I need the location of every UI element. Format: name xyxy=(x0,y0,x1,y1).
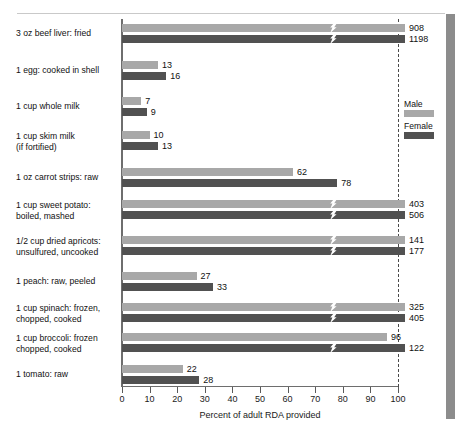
bar-value-female-10: 28 xyxy=(203,375,213,385)
row-label-line1: 1 cup skim milk xyxy=(16,131,120,142)
bar-female-7 xyxy=(122,283,213,291)
row-label-line1: 1 oz carrot strips: raw xyxy=(16,172,120,183)
row-label-0: 3 oz beef liver: fried xyxy=(16,28,120,39)
bar-female-5 xyxy=(122,211,405,219)
row-label-2: 1 cup whole milk xyxy=(16,101,120,112)
legend-label-female: Female xyxy=(404,121,448,131)
row-label-line2: chopped, cooked xyxy=(16,344,120,355)
row-label-line1: 1 tomato: raw xyxy=(16,369,120,380)
bar-male-8 xyxy=(122,303,405,311)
x-tick-30 xyxy=(205,387,206,393)
x-tick-0 xyxy=(122,387,123,393)
x-tick-label-50: 50 xyxy=(255,394,265,404)
bar-female-3 xyxy=(122,142,158,150)
bar-male-5 xyxy=(122,200,405,208)
row-label-line2: chopped, cooked xyxy=(16,314,120,325)
x-tick-label-100: 100 xyxy=(390,394,405,404)
row-label-line1: 3 oz beef liver: fried xyxy=(16,28,120,39)
chart-legend: Male Female xyxy=(404,99,448,143)
bar-value-male-10: 22 xyxy=(187,364,197,374)
bar-male-2 xyxy=(122,97,141,105)
axis-break-icon xyxy=(329,210,338,220)
bar-female-10 xyxy=(122,376,199,384)
bar-female-4 xyxy=(122,179,337,187)
bar-value-female-6: 177 xyxy=(409,246,424,256)
axis-break-icon xyxy=(329,246,338,256)
bar-male-10 xyxy=(122,365,183,373)
x-tick-80 xyxy=(343,387,344,393)
bar-male-0 xyxy=(122,24,405,32)
bar-male-3 xyxy=(122,131,150,139)
row-label-line2: unsulfured, uncooked xyxy=(16,247,120,258)
legend-swatch-male xyxy=(404,110,434,117)
bar-value-female-7: 33 xyxy=(217,282,227,292)
bar-value-male-4: 62 xyxy=(297,167,307,177)
legend-swatch-female xyxy=(404,132,434,139)
axis-break-icon xyxy=(329,34,338,44)
bar-value-male-2: 7 xyxy=(145,96,150,106)
bar-female-6 xyxy=(122,247,405,255)
bar-male-6 xyxy=(122,236,405,244)
row-label-line2: boiled, mashed xyxy=(16,211,120,222)
row-label-line1: 1 egg: cooked in shell xyxy=(16,65,120,76)
bar-male-9 xyxy=(122,333,387,341)
row-label-8: 1 cup spinach: frozen,chopped, cooked xyxy=(16,303,120,324)
x-tick-60 xyxy=(288,387,289,393)
bar-value-male-8: 325 xyxy=(409,302,424,312)
axis-break-icon xyxy=(329,199,338,209)
bar-value-female-3: 13 xyxy=(162,141,172,151)
axis-break-icon xyxy=(329,302,338,312)
row-label-4: 1 oz carrot strips: raw xyxy=(16,172,120,183)
x-tick-100 xyxy=(398,387,399,393)
x-tick-20 xyxy=(177,387,178,393)
x-axis-title: Percent of adult RDA provided xyxy=(121,410,399,420)
bar-female-0 xyxy=(122,35,405,43)
bar-value-male-0: 908 xyxy=(409,23,424,33)
row-label-7: 1 peach: raw, peeled xyxy=(16,276,120,287)
legend-label-male: Male xyxy=(404,99,448,109)
row-label-line1: 1 cup spinach: frozen, xyxy=(16,303,120,314)
bar-value-male-5: 403 xyxy=(409,199,424,209)
bar-value-male-9: 96 xyxy=(391,332,401,342)
x-tick-label-90: 90 xyxy=(365,394,375,404)
x-tick-label-0: 0 xyxy=(119,394,124,404)
axis-break-icon xyxy=(329,235,338,245)
row-label-9: 1 cup broccoli: frozenchopped, cooked xyxy=(16,333,120,354)
x-tick-90 xyxy=(370,387,371,393)
row-label-line1: 1 cup sweet potato: xyxy=(16,200,120,211)
x-tick-label-10: 10 xyxy=(145,394,155,404)
bar-male-4 xyxy=(122,168,293,176)
x-tick-70 xyxy=(315,387,316,393)
row-label-line1: 1 cup broccoli: frozen xyxy=(16,333,120,344)
bar-male-1 xyxy=(122,61,158,69)
x-tick-label-20: 20 xyxy=(172,394,182,404)
x-tick-50 xyxy=(260,387,261,393)
bar-value-female-4: 78 xyxy=(341,178,351,188)
x-tick-label-30: 30 xyxy=(200,394,210,404)
x-tick-label-70: 70 xyxy=(310,394,320,404)
bar-female-1 xyxy=(122,72,166,80)
bar-value-male-7: 27 xyxy=(201,271,211,281)
axis-break-icon xyxy=(329,23,338,33)
bar-value-female-8: 405 xyxy=(409,313,424,323)
row-label-1: 1 egg: cooked in shell xyxy=(16,65,120,76)
bar-female-2 xyxy=(122,108,147,116)
row-label-line1: 1/2 cup dried apricots: xyxy=(16,236,120,247)
bar-value-female-5: 506 xyxy=(409,210,424,220)
row-label-5: 1 cup sweet potato:boiled, mashed xyxy=(16,200,120,221)
vitamin-a-rda-bar-chart: 0102030405060708090100 3 oz beef liver: … xyxy=(0,0,466,433)
bar-value-male-3: 10 xyxy=(154,130,164,140)
page-edge-strip xyxy=(446,14,455,419)
bar-female-8 xyxy=(122,314,405,322)
x-tick-label-60: 60 xyxy=(283,394,293,404)
row-label-line1: 1 cup whole milk xyxy=(16,101,120,112)
page-top-rule xyxy=(17,13,445,14)
x-tick-label-40: 40 xyxy=(227,394,237,404)
axis-break-icon xyxy=(329,343,338,353)
bar-value-female-0: 1198 xyxy=(409,34,428,44)
x-tick-label-80: 80 xyxy=(338,394,348,404)
row-label-3: 1 cup skim milk(if fortified) xyxy=(16,131,120,152)
x-tick-10 xyxy=(150,387,151,393)
row-label-line2: (if fortified) xyxy=(16,142,120,153)
bar-value-female-9: 122 xyxy=(409,343,424,353)
